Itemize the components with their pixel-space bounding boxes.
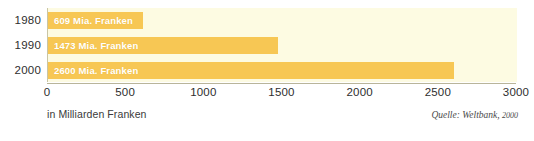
x-axis-tick-label-500: 500	[115, 86, 135, 98]
bar-value-label-1990: 1473 Mia. Franken	[54, 40, 138, 51]
bar-value-label-2000: 2600 Mia. Franken	[54, 65, 138, 76]
y-axis-tick-label-2000: 2000	[0, 64, 41, 76]
x-axis-tick-label-3000: 3000	[503, 86, 529, 98]
x-axis-tick-labels: 050010001500200025003000	[0, 86, 534, 102]
bar-value-label-1980: 609 Mia. Franken	[54, 15, 133, 26]
plot-area: 609 Mia. Franken 1473 Mia. Franken 2600 …	[47, 8, 517, 82]
x-axis-caption: in Milliarden Franken	[47, 108, 147, 120]
x-axis-tick-label-1500: 1500	[268, 86, 294, 98]
x-axis-tick-label-2500: 2500	[425, 86, 451, 98]
x-axis-tick-label-1000: 1000	[190, 86, 216, 98]
source-note: Quelle: Weltbank, 2000	[431, 110, 518, 120]
bar-1980: 609 Mia. Franken	[48, 12, 143, 29]
bar-2000: 2600 Mia. Franken	[48, 62, 454, 79]
y-axis-tick-label-1980: 1980	[0, 14, 41, 26]
bar-1990: 1473 Mia. Franken	[48, 37, 278, 54]
bars-container: 609 Mia. Franken 1473 Mia. Franken 2600 …	[48, 8, 517, 82]
x-axis-tick-label-2000: 2000	[346, 86, 372, 98]
bar-chart-figure: 1980 1990 2000 609 Mia. Franken 1473 Mia…	[0, 0, 534, 141]
x-axis-line	[47, 83, 516, 84]
x-axis-tick-label-0: 0	[44, 86, 51, 98]
y-axis-category-labels: 1980 1990 2000	[0, 8, 41, 82]
y-axis-tick-label-1990: 1990	[0, 39, 41, 51]
source-note-prefix: Quelle: Weltbank,	[431, 110, 499, 120]
source-note-year: 2000	[502, 111, 518, 120]
